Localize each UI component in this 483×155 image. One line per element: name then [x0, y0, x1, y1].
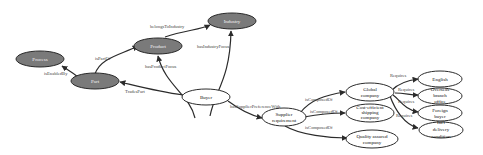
svg-text:Requires: Requires: [396, 113, 413, 118]
svg-text:Int'l: Int'l: [437, 120, 445, 125]
svg-text:hasIndustryFocus: hasIndustryFocus: [197, 44, 230, 49]
svg-text:company: company: [361, 115, 380, 120]
node-global-company[interactable]: Global company: [346, 83, 394, 101]
svg-text:isComposedOf: isComposedOf: [305, 125, 333, 130]
svg-text:delivery: delivery: [433, 127, 450, 132]
svg-text:Buyer: Buyer: [200, 95, 213, 100]
edge-has-product-focus: hasProductFocus: [145, 56, 195, 118]
edge-requires-2: Requires: [395, 87, 418, 95]
svg-text:Process: Process: [32, 57, 47, 62]
node-buyer[interactable]: Buyer: [182, 89, 230, 105]
svg-text:Industry: Industry: [224, 19, 241, 24]
svg-text:condition: condition: [432, 134, 451, 139]
svg-text:isComposedOf: isComposedOf: [305, 97, 333, 102]
edge-is-composed-of-3: isComposedOf: [285, 125, 347, 138]
node-supplier-requirement[interactable]: Supplier requirement: [262, 108, 306, 126]
svg-text:isPartOf: isPartOf: [95, 56, 111, 61]
svg-text:office: office: [434, 99, 446, 104]
svg-text:branch: branch: [433, 93, 447, 98]
diagram-canvas: isEnabledBy isPartOf belongsToIndustry h…: [0, 0, 483, 155]
node-industry[interactable]: Industry: [208, 13, 256, 29]
svg-text:buyer: buyer: [434, 114, 446, 119]
svg-text:Product: Product: [150, 44, 166, 49]
node-cost-efficient-shipping-company[interactable]: Cost-efficient shipping company: [346, 104, 394, 122]
svg-text:company: company: [363, 140, 382, 145]
svg-text:Global: Global: [363, 87, 377, 92]
svg-text:requirement: requirement: [272, 118, 297, 123]
svg-text:Supplier: Supplier: [276, 112, 293, 117]
svg-text:belongsToIndustry: belongsToIndustry: [150, 24, 185, 29]
svg-text:company: company: [361, 93, 380, 98]
edge-is-part-of: isPartOf: [95, 46, 138, 74]
node-english[interactable]: English: [418, 71, 462, 87]
node-part[interactable]: Part: [71, 73, 119, 89]
edge-is-enabled-by: isEnabledBy: [44, 66, 78, 77]
svg-text:Overseas: Overseas: [431, 87, 449, 92]
edge-belongs-to-industry: belongsToIndustry: [150, 24, 210, 37]
node-overseas-branch-office[interactable]: Overseas branch office: [418, 87, 462, 104]
svg-text:Part: Part: [91, 79, 100, 84]
node-foreign-buyer[interactable]: Foreign buyer: [418, 105, 462, 121]
svg-text:isComposedOf: isComposedOf: [310, 109, 338, 114]
node-process[interactable]: Process: [16, 51, 64, 67]
svg-text:TradesPart: TradesPart: [125, 89, 145, 94]
svg-text:Requires: Requires: [390, 73, 407, 78]
svg-text:hasSupplierPreferenceWith: hasSupplierPreferenceWith: [230, 104, 281, 109]
svg-text:isEnabledBy: isEnabledBy: [44, 71, 68, 76]
node-quality-assured-company[interactable]: Quality assured company: [346, 130, 398, 148]
svg-text:Requires: Requires: [398, 99, 415, 104]
svg-text:Foreign: Foreign: [432, 108, 448, 113]
svg-text:hasProductFocus: hasProductFocus: [145, 64, 177, 69]
edge-is-composed-of-2: isComposedOf: [304, 109, 345, 117]
svg-text:Quality assured: Quality assured: [356, 134, 388, 139]
node-delivery-condition[interactable]: Int'l delivery condition: [419, 120, 463, 139]
svg-text:Requires: Requires: [398, 87, 415, 92]
svg-text:English: English: [432, 77, 448, 82]
node-product[interactable]: Product: [134, 38, 182, 54]
